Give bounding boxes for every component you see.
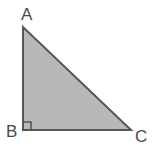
geometry-figure-canvas: A B C (0, 0, 155, 147)
triangle-shape (23, 27, 131, 130)
vertex-label-a: A (21, 6, 32, 23)
vertex-label-c: C (135, 128, 147, 145)
vertex-label-b: B (6, 123, 17, 140)
